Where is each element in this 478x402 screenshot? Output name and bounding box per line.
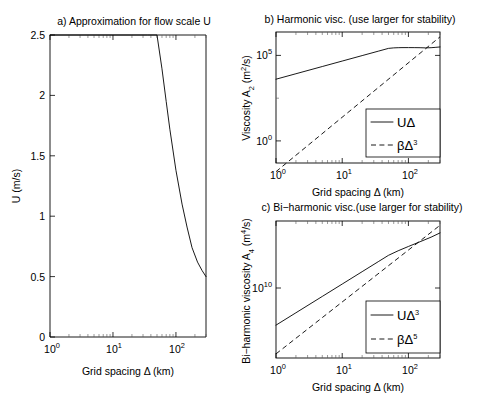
panel-b-ytick-1e0: 100 xyxy=(256,133,272,147)
panel-a-ytick-1: 1 xyxy=(39,210,45,222)
svg-text:100: 100 xyxy=(270,362,286,376)
panel-a-xtick-base-1: 10 xyxy=(106,343,118,355)
svg-text:102: 102 xyxy=(169,341,185,355)
panel-a-ytick-2: 2 xyxy=(39,89,45,101)
panel-a-flow-scale: a) Approximation for flow scale U 0 0.5 … xyxy=(0,0,240,402)
panel-b-legend: UΔ βΔ3 xyxy=(366,109,440,157)
panel-b-harmonic-viscosity: b) Harmonic visc. (use larger for stabil… xyxy=(238,0,478,200)
panel-a-ytick-0: 0 xyxy=(39,331,45,343)
panel-c-legend: UΔ3 βΔ5 xyxy=(366,301,440,353)
panel-a-xlabel: Grid spacing Δ (km) xyxy=(82,365,174,377)
panel-a-series-u xyxy=(50,35,206,277)
panel-c-xtick-labels: 100 101 102 xyxy=(270,362,418,376)
svg-text:101: 101 xyxy=(106,341,122,355)
panel-b-xtick-labels: 100 101 102 xyxy=(270,167,418,181)
panel-a-ylabel: U (m/s) xyxy=(10,169,22,203)
panel-a-y-ticks: 0 0.5 1 1.5 2 2.5 xyxy=(30,29,55,343)
svg-text:102: 102 xyxy=(402,362,418,376)
panel-a-xtick-exp-1: 1 xyxy=(118,341,122,350)
svg-text:100: 100 xyxy=(270,167,286,181)
panel-b-title: b) Harmonic visc. (use larger for stabil… xyxy=(265,13,456,25)
panel-b-ylabel: Viscosity A2 (m2/s) xyxy=(239,55,256,141)
svg-text:101: 101 xyxy=(336,362,352,376)
panel-a-title: a) Approximation for flow scale U xyxy=(57,15,210,27)
panel-b-series-udelta xyxy=(276,47,440,79)
panel-b-ytick-1e5: 105 xyxy=(256,47,272,61)
panel-a-xtick-exp-2: 2 xyxy=(181,341,185,350)
panel-a-ytick-2.5: 2.5 xyxy=(30,29,45,41)
svg-text:101: 101 xyxy=(336,167,352,181)
panel-c-title: c) Bi−harmonic visc.(use larger for stab… xyxy=(261,201,462,213)
panel-c-ytick-1e10: 1010 xyxy=(252,280,272,294)
panel-a-xtick-base-2: 10 xyxy=(169,343,181,355)
panel-a-axes xyxy=(50,35,206,337)
panel-c-xlabel: Grid spacing Δ (km) xyxy=(312,381,404,393)
panel-c-biharmonic-viscosity: c) Bi−harmonic visc.(use larger for stab… xyxy=(238,196,478,402)
svg-text:102: 102 xyxy=(402,167,418,181)
panel-a-xtick-exp-0: 0 xyxy=(56,341,60,350)
panel-a-x-ticks xyxy=(50,35,206,337)
svg-text:100: 100 xyxy=(44,341,60,355)
panel-b-legend-label-0: UΔ xyxy=(397,115,415,130)
panel-a-ytick-1.5: 1.5 xyxy=(30,150,45,162)
figure-canvas: a) Approximation for flow scale U 0 0.5 … xyxy=(0,0,478,402)
panel-a-xtick-labels: 100 101 102 xyxy=(44,341,185,355)
panel-a-ytick-0.5: 0.5 xyxy=(30,271,45,283)
panel-a-xtick-base-0: 10 xyxy=(44,343,56,355)
